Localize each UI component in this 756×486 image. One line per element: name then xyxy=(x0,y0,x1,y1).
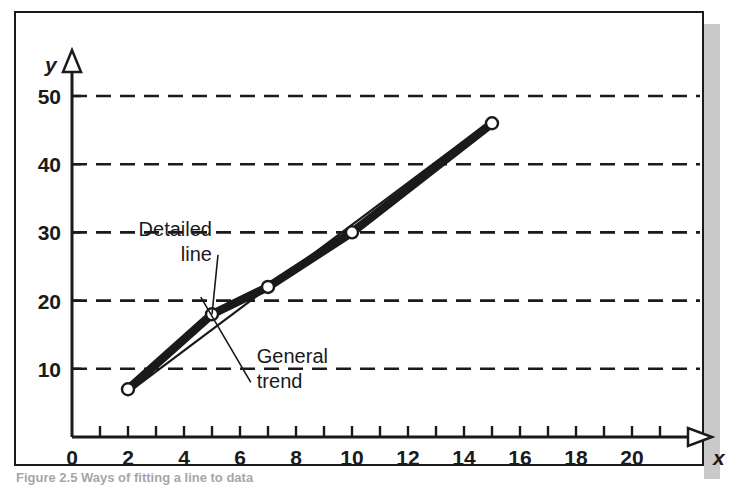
figure-drop-shadow xyxy=(704,24,720,479)
figure-root: 024681012141618201020304050 yx Detailedl… xyxy=(0,0,756,486)
figure-caption: Figure 2.5 Ways of fitting a line to dat… xyxy=(16,470,516,485)
figure-frame xyxy=(14,11,704,466)
